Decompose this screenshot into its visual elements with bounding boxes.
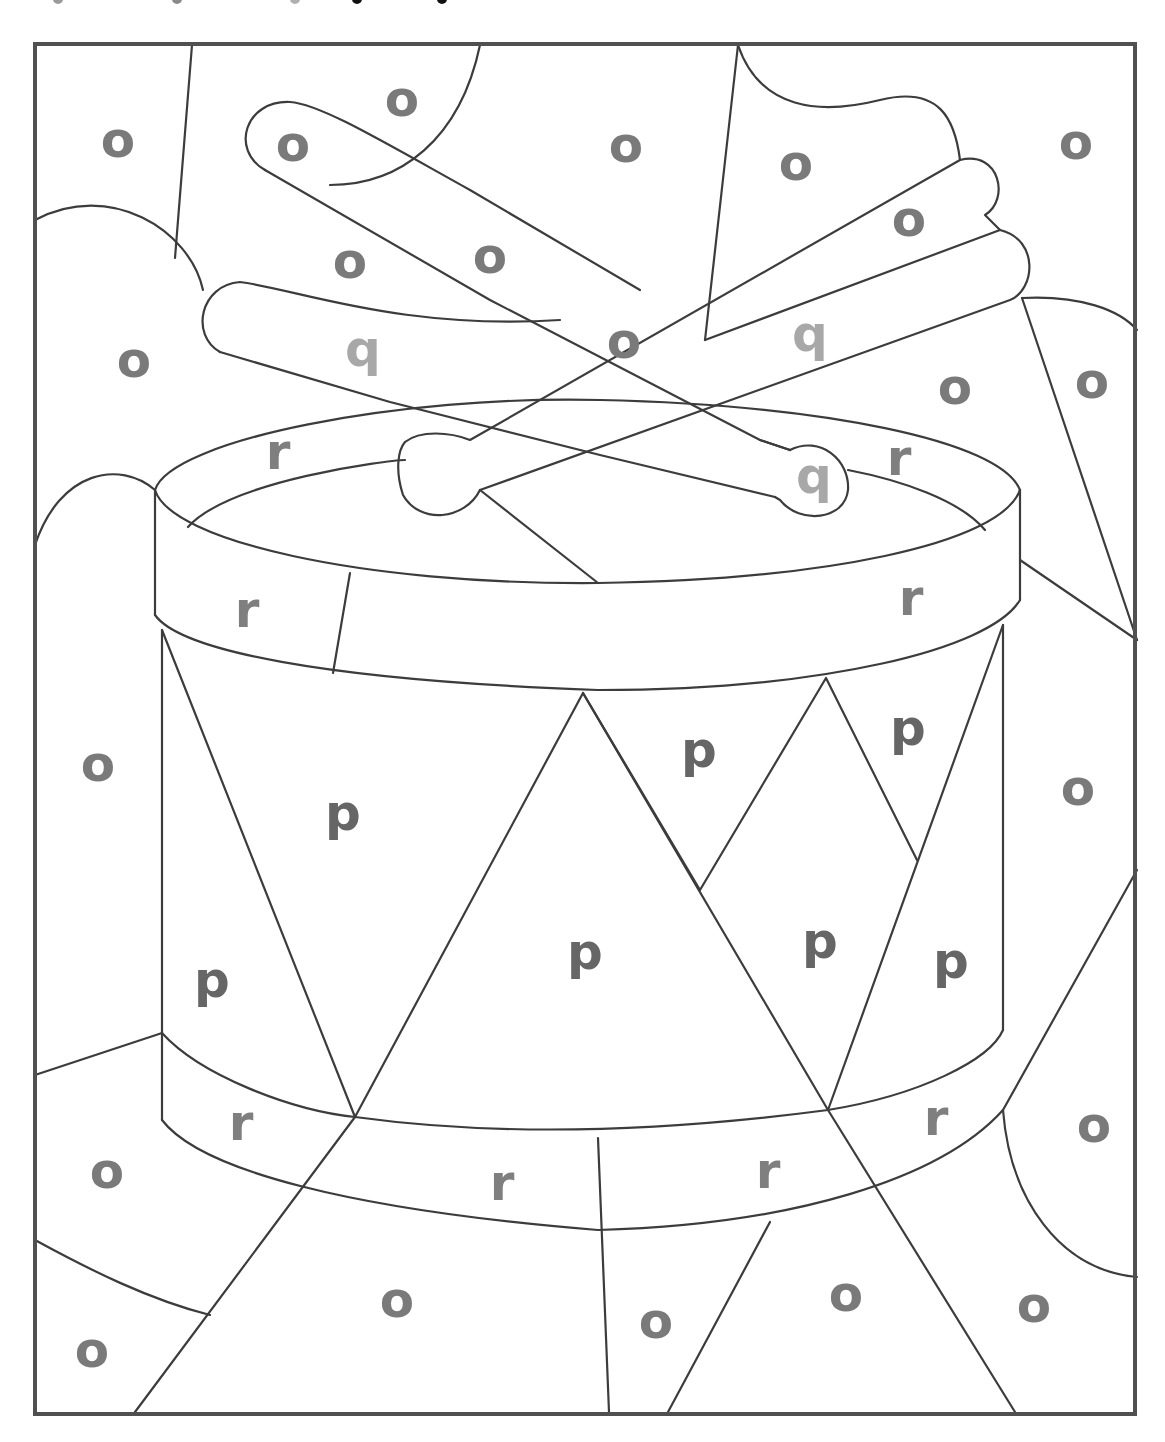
region-letter-o[interactable]: o <box>607 316 641 366</box>
region-letter-o[interactable]: o <box>90 1146 124 1196</box>
region-letter-p[interactable]: p <box>325 788 361 838</box>
region-letter-r[interactable]: r <box>229 1098 254 1148</box>
region-letter-o[interactable]: o <box>779 138 813 188</box>
region-letter-r[interactable]: r <box>887 433 912 483</box>
region-letter-p[interactable]: p <box>933 936 969 986</box>
region-letter-o[interactable]: o <box>380 1275 414 1325</box>
region-letter-o[interactable]: o <box>639 1296 673 1346</box>
region-letter-o[interactable]: o <box>938 362 972 412</box>
region-letter-q[interactable]: q <box>792 309 828 359</box>
region-letter-o[interactable]: o <box>1077 1100 1111 1150</box>
region-letter-p[interactable]: p <box>890 703 926 753</box>
region-letter-p[interactable]: p <box>802 916 838 966</box>
region-letter-o[interactable]: o <box>276 119 310 169</box>
region-letter-q[interactable]: q <box>345 324 381 374</box>
region-letter-o[interactable]: o <box>473 231 507 281</box>
region-letter-p[interactable]: p <box>194 955 230 1005</box>
region-letter-o[interactable]: o <box>1059 117 1093 167</box>
region-letter-p[interactable]: p <box>681 725 717 775</box>
region-letter-o[interactable]: o <box>1075 356 1109 406</box>
region-letter-r[interactable]: r <box>924 1093 949 1143</box>
region-letter-o[interactable]: o <box>101 115 135 165</box>
region-letter-o[interactable]: o <box>75 1325 109 1375</box>
region-letter-o[interactable]: o <box>609 120 643 170</box>
region-letter-o[interactable]: o <box>333 236 367 286</box>
region-letter-r[interactable]: r <box>490 1158 515 1208</box>
region-letter-r[interactable]: r <box>899 573 924 623</box>
region-letter-r[interactable]: r <box>266 427 291 477</box>
region-letter-o[interactable]: o <box>117 335 151 385</box>
region-letter-r[interactable]: r <box>756 1146 781 1196</box>
region-letter-o[interactable]: o <box>892 194 926 244</box>
region-letter-p[interactable]: p <box>567 927 603 977</box>
region-letter-o[interactable]: o <box>385 74 419 124</box>
letter-labels: oooooooooooooqqqrrrropppopppprroorrooooo <box>0 0 1165 1442</box>
region-letter-q[interactable]: q <box>796 451 832 501</box>
region-letter-o[interactable]: o <box>1017 1280 1051 1330</box>
region-letter-o[interactable]: o <box>1061 763 1095 813</box>
region-letter-r[interactable]: r <box>235 585 260 635</box>
region-letter-o[interactable]: o <box>81 739 115 789</box>
region-letter-o[interactable]: o <box>829 1269 863 1319</box>
